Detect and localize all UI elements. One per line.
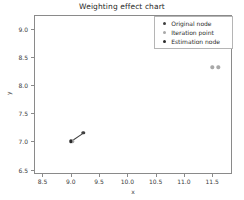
y-tick-label: 7.5: [18, 110, 28, 117]
y-tick-label: 7.0: [18, 138, 28, 145]
y-tick-mark: [31, 85, 34, 86]
x-tick-mark: [212, 174, 213, 177]
legend-item[interactable]: Iteration point: [157, 28, 229, 37]
legend-marker-icon: [163, 22, 166, 25]
y-tick-mark: [31, 141, 34, 142]
legend-item-label: Original node: [171, 20, 211, 27]
y-tick-label: 8.0: [18, 82, 28, 89]
x-tick-mark: [127, 174, 128, 177]
legend-item[interactable]: Original node: [157, 19, 229, 28]
y-tick-label: 9.0: [18, 26, 28, 33]
legend-item[interactable]: Estimation node: [157, 37, 229, 46]
y-tick-mark: [31, 113, 34, 114]
page-title: Weighting effect chart: [0, 2, 244, 11]
x-tick-label: 9.0: [66, 178, 76, 185]
x-tick-label: 11.0: [177, 178, 190, 185]
y-tick-label: 8.5: [18, 54, 28, 61]
chart-legend: Original nodeIteration pointEstimation n…: [154, 16, 233, 49]
x-tick-mark: [71, 174, 72, 177]
x-tick-mark: [184, 174, 185, 177]
x-tick-mark: [42, 174, 43, 177]
x-tick-label: 10.0: [121, 178, 134, 185]
legend-item-label: Iteration point: [171, 29, 214, 36]
x-tick-label: 10.5: [149, 178, 162, 185]
x-tick-label: 9.5: [94, 178, 104, 185]
y-tick-label: 6.5: [18, 166, 28, 173]
x-tick-label: 8.5: [38, 178, 48, 185]
x-axis-label: x: [131, 188, 135, 195]
x-tick-mark: [156, 174, 157, 177]
y-tick-mark: [31, 57, 34, 58]
y-tick-mark: [31, 170, 34, 171]
x-tick-label: 11.5: [206, 178, 219, 185]
y-axis-label: y: [5, 91, 12, 95]
x-tick-mark: [99, 174, 100, 177]
legend-marker-icon: [163, 40, 166, 43]
legend-item-label: Estimation node: [171, 38, 220, 45]
legend-marker-icon: [163, 31, 166, 34]
chart-figure: Weighting effect chart 8.59.09.510.010.5…: [0, 0, 244, 200]
y-tick-mark: [31, 29, 34, 30]
